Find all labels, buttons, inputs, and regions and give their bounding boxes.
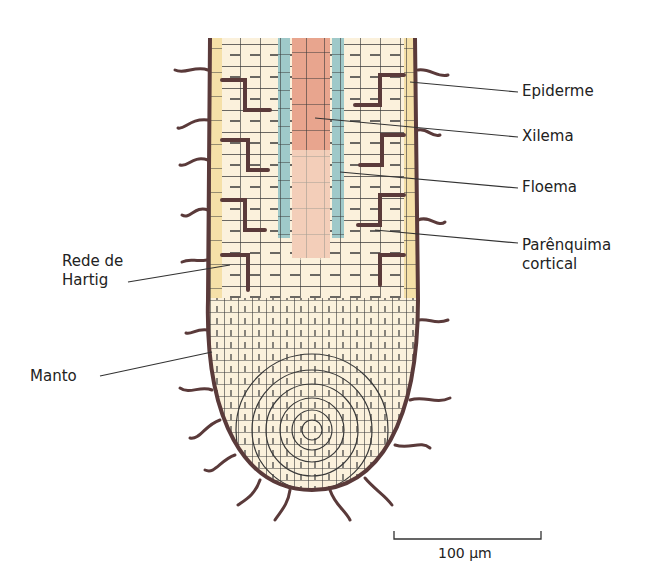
leader-manto bbox=[100, 352, 212, 376]
label-rede-de-hartig: Rede de Hartig bbox=[62, 252, 123, 290]
label-parenquima-line1: Parênquima bbox=[522, 236, 611, 255]
scale-bar bbox=[394, 531, 541, 539]
label-epiderme: Epiderme bbox=[522, 82, 594, 101]
label-parenquima-cortical: Parênquima cortical bbox=[522, 236, 611, 274]
label-parenquima-line2: cortical bbox=[522, 255, 611, 274]
label-hartig-line2: Hartig bbox=[62, 271, 123, 290]
label-hartig-line1: Rede de bbox=[62, 252, 123, 271]
label-manto: Manto bbox=[30, 367, 77, 386]
label-floema: Floema bbox=[522, 178, 577, 197]
scale-bar-label: 100 µm bbox=[438, 545, 492, 561]
leader-epiderme bbox=[410, 82, 518, 92]
label-xilema: Xilema bbox=[522, 127, 574, 146]
